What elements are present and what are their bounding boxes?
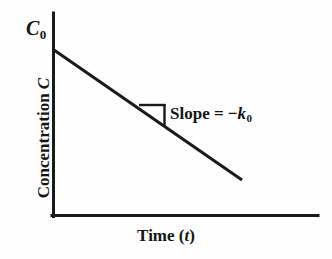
y-intercept-label: C0 (26, 17, 46, 43)
x-axis-label: Time (t) (0, 226, 332, 246)
y-intercept-subscript: 0 (40, 27, 47, 42)
x-axis-label-text: Time ( (137, 226, 184, 245)
y-axis-label-text: Concentration (34, 89, 53, 198)
chart-figure: C0 Concentration C Time (t) Slope = −k0 (0, 0, 332, 259)
y-axis-label: Concentration C (34, 58, 54, 218)
x-axis-label-suffix: ) (189, 226, 195, 245)
slope-rate-constant-symbol: k (238, 104, 247, 123)
slope-rate-constant-subscript: 0 (247, 112, 253, 124)
y-axis-label-variable: C (34, 78, 53, 89)
slope-annotation-prefix: Slope = − (170, 104, 238, 123)
y-intercept-symbol: C (26, 17, 39, 39)
slope-annotation-label: Slope = −k0 (170, 104, 252, 124)
